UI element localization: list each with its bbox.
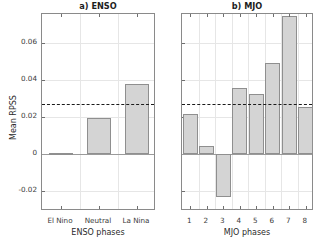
x-axis-tick-mark-top — [256, 14, 257, 17]
x-axis-tick-mark — [61, 206, 62, 209]
panel-a-title: a) ENSO — [41, 2, 155, 10]
y-axis-tick-label: 0.06 — [5, 38, 37, 45]
x-axis-tick-mark — [137, 206, 138, 209]
gridline-horizontal — [42, 80, 154, 81]
x-axis-tick-mark-top — [61, 14, 62, 17]
y-axis-tick-mark — [42, 43, 45, 44]
x-axis-tick-mark-top — [207, 14, 208, 17]
bar — [216, 154, 231, 198]
x-axis-tick-mark — [256, 206, 257, 209]
x-axis-tick-label: 8 — [293, 217, 318, 224]
gridline-horizontal — [42, 43, 154, 44]
x-axis-tick-mark — [240, 206, 241, 209]
x-axis-tick-mark — [207, 206, 208, 209]
x-axis-tick-mark — [190, 206, 191, 209]
panel-a-x-axis-label: ENSO phases — [21, 229, 175, 237]
x-axis-tick-mark-top — [223, 14, 224, 17]
panel-b-plot-area — [181, 13, 313, 210]
x-axis-tick-mark — [273, 206, 274, 209]
bar — [125, 84, 149, 154]
x-axis-tick-mark-top — [190, 14, 191, 17]
y-axis-tick-label: -0.02 — [5, 186, 37, 193]
x-axis-tick-mark — [223, 206, 224, 209]
x-axis-tick-mark-top — [306, 14, 307, 17]
y-axis-tick-mark — [182, 191, 185, 192]
bar — [199, 146, 214, 153]
panel-a-plot-area — [41, 13, 155, 210]
gridline-horizontal — [42, 191, 154, 192]
gridline-horizontal — [182, 191, 312, 192]
y-axis-tick-label: 0.02 — [5, 112, 37, 119]
bar — [298, 107, 313, 154]
zero-reference-line — [182, 154, 312, 155]
panel-b-title: b) MJO — [181, 2, 313, 10]
x-axis-tick-mark-top — [240, 14, 241, 17]
x-axis-tick-mark-top — [289, 14, 290, 17]
threshold-dashed-line — [42, 104, 154, 105]
bar — [282, 16, 297, 154]
gridline-vertical — [199, 14, 200, 209]
threshold-dashed-line — [182, 104, 312, 105]
y-axis-tick-mark — [42, 117, 45, 118]
gridline-vertical — [118, 14, 119, 209]
y-axis-tick-mark — [182, 80, 185, 81]
x-axis-tick-label: La Nina — [113, 217, 159, 224]
figure-root: a) ENSO Mean RPSS ENSO phases b) MJO MJO… — [0, 0, 321, 242]
x-axis-tick-mark — [289, 206, 290, 209]
y-axis-tick-label: 0.04 — [5, 75, 37, 82]
bar — [232, 88, 247, 154]
x-axis-tick-mark-top — [273, 14, 274, 17]
bar — [87, 118, 111, 154]
y-axis-tick-mark — [42, 191, 45, 192]
panel-b-x-axis-label: MJO phases — [161, 229, 321, 237]
x-axis-tick-mark-top — [99, 14, 100, 17]
y-axis-tick-mark — [182, 43, 185, 44]
y-axis-tick-mark — [42, 80, 45, 81]
x-axis-tick-mark-top — [137, 14, 138, 17]
bar — [49, 153, 73, 155]
gridline-vertical — [80, 14, 81, 209]
bar — [183, 114, 198, 153]
x-axis-tick-mark — [99, 206, 100, 209]
x-axis-tick-mark — [306, 206, 307, 209]
y-axis-tick-label: 0 — [5, 149, 37, 156]
bar — [265, 63, 280, 153]
